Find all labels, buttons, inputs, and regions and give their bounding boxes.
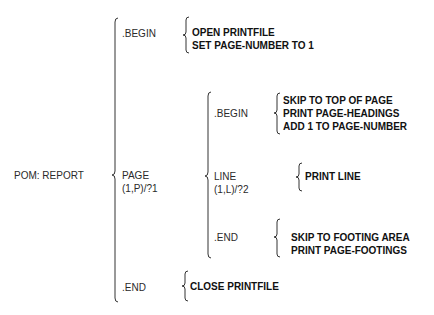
root-label: POM: REPORT xyxy=(14,169,84,182)
begin-label: .BEGIN xyxy=(122,27,156,40)
warnier-orr-diagram: POM: REPORT .BEGIN PAGE (1,P)/?1 .END OP… xyxy=(0,0,434,315)
line-actions-brace xyxy=(296,163,302,191)
page-end-label: .END xyxy=(214,231,238,244)
begin-actions: OPEN PRINTFILE SET PAGE-NUMBER TO 1 xyxy=(192,26,314,52)
end-action-1: CLOSE PRINTFILE xyxy=(190,280,279,293)
page-repetition: (1,P)/?1 xyxy=(122,182,158,195)
page-begin-label: .BEGIN xyxy=(214,107,248,120)
page-begin-action-2: PRINT PAGE-HEADINGS xyxy=(283,107,407,120)
page-brace xyxy=(205,92,211,258)
line-label: LINE xyxy=(214,170,236,183)
page-end-action-1: SKIP TO FOOTING AREA xyxy=(291,231,410,244)
page-end-action-2: PRINT PAGE-FOOTINGS xyxy=(291,244,410,257)
page-end-actions: SKIP TO FOOTING AREA PRINT PAGE-FOOTINGS xyxy=(291,231,410,257)
end-actions: CLOSE PRINTFILE xyxy=(190,280,279,293)
page-begin-actions-brace xyxy=(274,93,280,134)
begin-action-2: SET PAGE-NUMBER TO 1 xyxy=(192,39,314,52)
line-repetition: (1,L)/?2 xyxy=(214,183,248,196)
page-label: PAGE xyxy=(122,169,149,182)
page-begin-action-3: ADD 1 TO PAGE-NUMBER xyxy=(283,120,407,133)
end-actions-brace xyxy=(182,271,188,301)
begin-action-1: OPEN PRINTFILE xyxy=(192,26,314,39)
page-end-actions-brace xyxy=(274,219,280,257)
main-brace xyxy=(112,18,118,302)
line-action-1: PRINT LINE xyxy=(305,170,361,183)
line-actions: PRINT LINE xyxy=(305,170,361,183)
begin-actions-brace xyxy=(183,17,189,53)
end-label: .END xyxy=(122,281,146,294)
page-begin-action-1: SKIP TO TOP OF PAGE xyxy=(283,94,407,107)
page-begin-actions: SKIP TO TOP OF PAGE PRINT PAGE-HEADINGS … xyxy=(283,94,407,133)
